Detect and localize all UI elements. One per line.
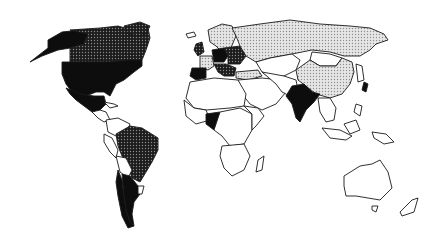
region-new-guinea xyxy=(372,132,394,144)
region-greenland xyxy=(124,22,150,36)
region-central-africa xyxy=(214,108,252,146)
region-iberia xyxy=(190,68,206,80)
region-russia xyxy=(232,20,388,62)
world-map xyxy=(0,0,443,250)
region-madagascar xyxy=(256,156,264,172)
region-peru-ecuador xyxy=(104,134,118,158)
region-uk-ireland xyxy=(194,42,204,56)
region-philippines xyxy=(354,104,362,116)
region-new-zealand xyxy=(400,198,418,216)
region-usa xyxy=(62,60,142,96)
region-iceland xyxy=(186,32,196,38)
region-borneo-sulawesi xyxy=(344,120,360,134)
region-north-africa xyxy=(186,78,246,110)
region-australia xyxy=(344,160,392,200)
region-caribbean xyxy=(104,102,118,108)
region-korea-japan xyxy=(356,64,364,82)
region-uruguay xyxy=(138,186,144,194)
country-regions xyxy=(30,20,418,228)
region-southeast-asia xyxy=(318,98,336,122)
region-italy-balkans xyxy=(214,64,236,76)
region-tasmania xyxy=(372,206,378,212)
region-southern-africa xyxy=(220,144,250,176)
region-japan-islands xyxy=(362,82,368,92)
